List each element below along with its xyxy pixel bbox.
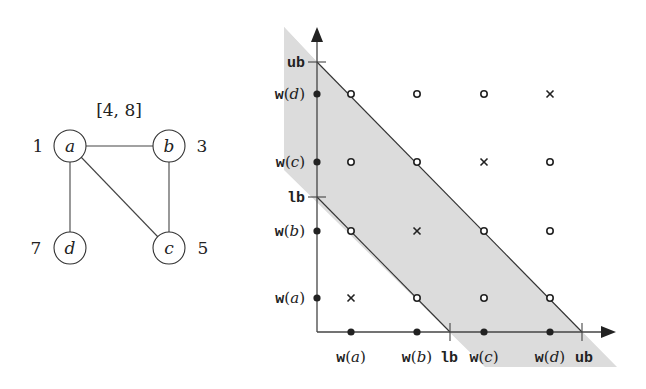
interval-label: [4, 8] — [96, 100, 142, 120]
node-c: c 5 — [153, 232, 208, 264]
node-d: d 7 — [31, 232, 86, 264]
axis-point — [313, 90, 320, 97]
y-axis-arrow-icon — [311, 27, 323, 42]
axis-point — [546, 328, 553, 335]
tick-label: ub — [287, 55, 305, 72]
cross-marker-icon — [481, 159, 488, 166]
axis-point — [480, 328, 487, 335]
open-circle-marker-icon — [481, 228, 487, 234]
open-circle-marker-icon — [547, 159, 553, 165]
tick-label: lb — [287, 190, 305, 207]
node-label: d — [65, 238, 76, 258]
open-circle-marker-icon — [414, 295, 420, 301]
edge-a-c — [81, 157, 158, 237]
tick-label: w(b) — [275, 222, 305, 241]
tick-label: lb — [440, 350, 458, 367]
node-weight: 7 — [31, 238, 42, 258]
tick-label: w(a) — [275, 289, 305, 308]
node-weight: 1 — [33, 136, 44, 156]
tick-label: ub — [575, 350, 593, 367]
tick-label: w(c) — [276, 153, 305, 172]
open-circle-marker-icon — [547, 228, 553, 234]
tick-label: w(d) — [535, 348, 565, 367]
open-circle-marker-icon — [414, 159, 420, 165]
open-circle-marker-icon — [481, 295, 487, 301]
open-circle-marker-icon — [547, 295, 553, 301]
cross-marker-icon — [348, 295, 355, 302]
node-label: c — [164, 238, 174, 258]
node-weight: 3 — [197, 136, 208, 156]
axis-point — [413, 328, 420, 335]
node-label: a — [65, 136, 75, 156]
open-circle-marker-icon — [348, 228, 354, 234]
tick-label: w(b) — [402, 348, 432, 367]
axis-point — [347, 328, 354, 335]
open-circle-marker-icon — [348, 159, 354, 165]
open-circle-marker-icon — [414, 91, 420, 97]
x-axis-arrow-icon — [601, 326, 616, 338]
tick-label: w(c) — [469, 348, 498, 367]
diagram-canvas: [4, 8] a 1 b 3 c 5 d — [0, 0, 646, 389]
open-circle-marker-icon — [481, 91, 487, 97]
axis-point — [313, 227, 320, 234]
tick-label: w(a) — [336, 348, 366, 367]
node-weight: 5 — [198, 238, 209, 258]
cross-marker-icon — [547, 91, 554, 98]
weight-plot: ubw(d)w(c)lbw(b)w(a) w(a)w(b)lbw(c)w(d)u… — [275, 27, 617, 367]
figure: [4, 8] a 1 b 3 c 5 d — [0, 0, 646, 389]
axis-point — [313, 294, 320, 301]
axis-point — [313, 158, 320, 165]
node-label: b — [164, 136, 175, 156]
node-a: a 1 — [33, 130, 86, 162]
tick-label: w(d) — [275, 85, 305, 104]
open-circle-marker-icon — [348, 91, 354, 97]
weighted-graph: [4, 8] a 1 b 3 c 5 d — [31, 100, 209, 264]
node-b: b 3 — [153, 130, 207, 162]
